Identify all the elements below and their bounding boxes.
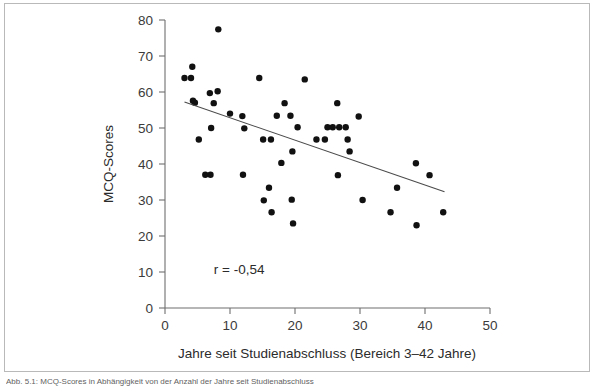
data-point <box>196 136 202 142</box>
data-point <box>336 124 342 130</box>
x-tick-label: 20 <box>287 318 302 333</box>
x-tick-label: 40 <box>417 318 432 333</box>
y-tick-label: 40 <box>138 157 153 172</box>
y-tick-label: 30 <box>138 193 153 208</box>
data-point <box>268 209 274 215</box>
data-point <box>330 124 336 130</box>
data-point <box>440 209 446 215</box>
data-point <box>256 75 262 81</box>
data-point <box>359 197 365 203</box>
trend-line <box>185 102 445 192</box>
data-point <box>335 172 341 178</box>
data-point <box>294 124 300 130</box>
x-axis-ticks: 01020304050 <box>161 308 497 333</box>
data-point <box>426 172 432 178</box>
data-point <box>208 125 214 131</box>
y-tick-label: 10 <box>138 265 153 280</box>
data-points-group <box>181 26 446 228</box>
y-tick-label: 50 <box>138 121 153 136</box>
data-point <box>214 88 220 94</box>
data-point <box>343 124 349 130</box>
x-tick-label: 30 <box>352 318 367 333</box>
y-tick-label: 60 <box>138 85 153 100</box>
y-tick-label: 0 <box>145 301 153 316</box>
data-point <box>189 64 195 70</box>
data-point <box>241 125 247 131</box>
data-point <box>313 136 319 142</box>
y-axis-ticks: 01020304050607080 <box>138 13 165 316</box>
data-point <box>346 148 352 154</box>
x-tick-label: 0 <box>161 318 169 333</box>
data-point <box>227 110 233 116</box>
data-point <box>215 26 221 32</box>
y-tick-label: 20 <box>138 229 153 244</box>
data-point <box>266 185 272 191</box>
scatter-plot: 01020304050607080 01020304050 r = -0,54 … <box>0 0 596 387</box>
x-tick-label: 10 <box>222 318 237 333</box>
data-point <box>207 90 213 96</box>
data-point <box>281 100 287 106</box>
y-tick-label: 80 <box>138 13 153 28</box>
data-point <box>413 160 419 166</box>
data-point <box>289 148 295 154</box>
data-point <box>302 76 308 82</box>
data-point <box>278 160 284 166</box>
data-point <box>394 185 400 191</box>
data-point <box>181 75 187 81</box>
data-point <box>344 136 350 142</box>
data-point <box>387 209 393 215</box>
y-axis-title: MCQ-Scores <box>101 125 116 203</box>
data-point <box>413 222 419 228</box>
data-point <box>274 113 280 119</box>
data-point <box>322 136 328 142</box>
figure-container: 01020304050607080 01020304050 r = -0,54 … <box>0 0 596 387</box>
data-point <box>334 100 340 106</box>
data-point <box>290 220 296 226</box>
y-tick-label: 70 <box>138 49 153 64</box>
data-point <box>268 136 274 142</box>
data-point <box>240 172 246 178</box>
data-point <box>289 196 295 202</box>
figure-caption: Abb. 5.1: MCQ-Scores in Abhängigkeit von… <box>6 377 590 386</box>
x-axis-title: Jahre seit Studienabschluss (Bereich 3–4… <box>178 346 476 361</box>
data-point <box>356 113 362 119</box>
data-point <box>239 113 245 119</box>
data-point <box>211 100 217 106</box>
correlation-annotation: r = -0,54 <box>214 262 265 277</box>
data-point <box>261 197 267 203</box>
data-point <box>287 113 293 119</box>
data-point <box>188 75 194 81</box>
x-tick-label: 50 <box>482 318 497 333</box>
data-point <box>260 136 266 142</box>
data-point <box>207 172 213 178</box>
